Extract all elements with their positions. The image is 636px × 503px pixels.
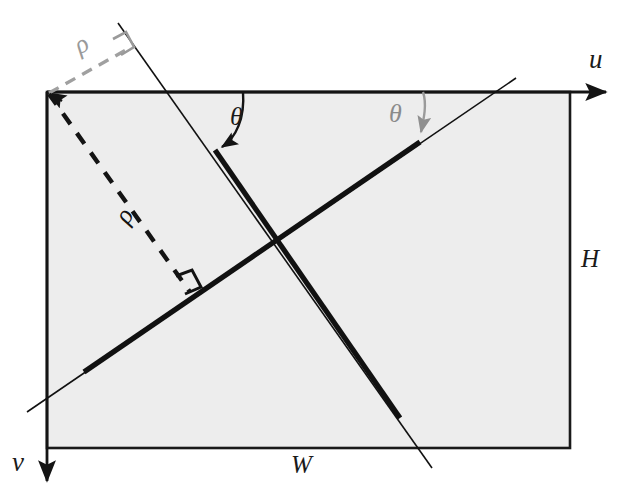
- axis-v-label: v: [12, 449, 24, 476]
- diagram-vector-layer: [0, 0, 636, 503]
- axis-u-label: u: [589, 46, 603, 73]
- diagram-canvas: u v W H θ θ ρ ρ: [0, 0, 636, 503]
- theta-gray-label: θ: [389, 101, 402, 127]
- height-label: H: [581, 246, 599, 271]
- image-plane-rect: [47, 92, 570, 448]
- width-label: W: [291, 452, 312, 477]
- theta-black-label: θ: [230, 104, 243, 130]
